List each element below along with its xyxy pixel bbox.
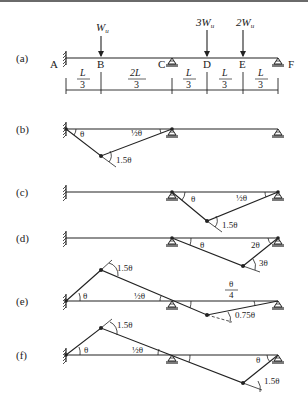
point-b: B <box>97 58 104 70</box>
svg-text:θ: θ <box>80 129 84 139</box>
collapse-mechanism-diagram: (a) A B C D E F Wu 3Wu 2Wu L 3 <box>0 0 308 406</box>
panel-label-c: (c) <box>16 186 29 199</box>
svg-text:θ: θ <box>256 355 260 365</box>
svg-text:0.75θ: 0.75θ <box>235 310 255 320</box>
panel-a: (a) A B C D E F Wu 3Wu 2Wu L 3 <box>16 16 294 94</box>
panel-b: (b) θ ½θ 1.5θ <box>16 122 284 167</box>
point-a: A <box>50 58 58 70</box>
svg-text:θ: θ <box>200 240 204 250</box>
svg-text:1.5θ: 1.5θ <box>116 155 132 165</box>
svg-text:L: L <box>257 67 264 78</box>
panel-c: (c) θ ½θ 1.5θ <box>16 185 284 232</box>
svg-text:3: 3 <box>258 79 263 90</box>
svg-text:½θ: ½θ <box>131 128 142 138</box>
point-d: D <box>203 58 211 70</box>
svg-text:θ: θ <box>229 279 233 289</box>
svg-text:1.5θ: 1.5θ <box>117 320 133 330</box>
svg-text:θ: θ <box>83 291 87 301</box>
load-d-label: 3Wu <box>195 16 215 30</box>
panel-label-e: (e) <box>16 295 29 308</box>
svg-text:1.5θ: 1.5θ <box>222 220 238 230</box>
svg-text:θ: θ <box>84 345 88 355</box>
svg-text:2θ: 2θ <box>251 240 260 250</box>
svg-text:4: 4 <box>229 290 234 300</box>
svg-text:2L: 2L <box>130 67 141 78</box>
roller-support-icon <box>272 58 284 66</box>
svg-text:L: L <box>221 67 228 78</box>
svg-text:3: 3 <box>186 79 191 90</box>
panel-d: (d) θ 2θ 3θ <box>16 231 284 272</box>
point-f: F <box>288 58 294 70</box>
panel-label-f: (f) <box>16 349 27 362</box>
panel-label-d: (d) <box>16 232 29 245</box>
svg-text:3: 3 <box>80 79 85 90</box>
svg-text:½θ: ½θ <box>236 193 247 203</box>
svg-text:½θ: ½θ <box>132 345 143 355</box>
load-e-label: 2Wu <box>236 16 255 30</box>
mechanism-line <box>172 192 278 221</box>
mechanism-line <box>66 270 278 315</box>
svg-text:3: 3 <box>134 79 139 90</box>
panel-f: (f) θ ½θ θ 1.5θ 1.5θ <box>16 319 284 392</box>
svg-text:1.5θ: 1.5θ <box>264 376 280 386</box>
point-c: C <box>158 58 165 70</box>
svg-text:3: 3 <box>222 79 227 90</box>
span-labels: L 3 2L 3 L 3 L 3 L 3 <box>77 67 268 90</box>
panel-label-b: (b) <box>16 123 29 136</box>
load-b-label: Wu <box>96 21 109 35</box>
svg-text:3θ: 3θ <box>259 258 268 268</box>
svg-text:θ: θ <box>191 194 195 204</box>
svg-text:L: L <box>185 67 192 78</box>
svg-text:L: L <box>79 67 86 78</box>
svg-text:½θ: ½θ <box>134 291 145 301</box>
dimension-ticks <box>66 72 278 94</box>
panel-label-a: (a) <box>16 52 29 65</box>
svg-text:1.5θ: 1.5θ <box>117 263 133 273</box>
fixed-support-icon <box>63 51 66 67</box>
roller-support-icon <box>166 58 178 66</box>
point-e: E <box>239 58 246 70</box>
panel-e: (e) θ ½θ 1.5θ 0.75θ θ 4 <box>16 260 284 323</box>
